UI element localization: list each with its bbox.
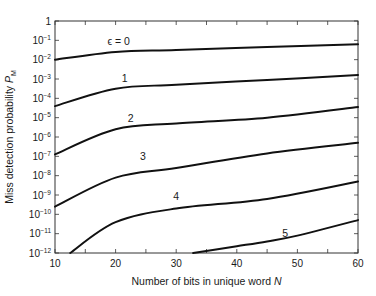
curve-group bbox=[55, 44, 358, 253]
plot-frame bbox=[55, 21, 358, 253]
x-tick-label: 10 bbox=[49, 258, 61, 269]
y-tick-label: 10−3 bbox=[32, 73, 51, 85]
x-tick-label: 50 bbox=[292, 258, 304, 269]
curve-epsilon-5 bbox=[193, 220, 358, 253]
y-tick-label: 10−2 bbox=[32, 53, 51, 65]
y-tick-label: 1 bbox=[45, 16, 51, 27]
curve-label-epsilon-5: 5 bbox=[282, 227, 288, 239]
x-tick-label: 60 bbox=[352, 258, 364, 269]
y-tick-label: 10−10 bbox=[29, 208, 52, 220]
y-tick-label: 10−8 bbox=[32, 169, 51, 181]
x-tick-label: 20 bbox=[110, 258, 122, 269]
curve-epsilon-0 bbox=[55, 44, 358, 60]
y-tick-label: 10−11 bbox=[29, 227, 51, 239]
curve-labels: ϵ = 012345 bbox=[107, 35, 288, 238]
curve-epsilon-3 bbox=[55, 143, 358, 207]
miss-detection-chart: 110−110−210−310−410−510−610−710−810−910−… bbox=[0, 0, 376, 296]
y-tick-label: 10−12 bbox=[29, 247, 52, 259]
curve-label-epsilon-1: 1 bbox=[122, 72, 128, 84]
curve-label-epsilon-4: 4 bbox=[173, 190, 179, 202]
y-tick-label: 10−6 bbox=[32, 131, 51, 143]
y-tick-label: 10−9 bbox=[32, 189, 51, 201]
y-axis-title: Miss detection probability PM bbox=[3, 70, 17, 204]
y-tick-label: 10−4 bbox=[32, 92, 51, 104]
curve-label-epsilon-3: 3 bbox=[140, 150, 146, 162]
curve-label-epsilon-0: ϵ = 0 bbox=[107, 35, 130, 47]
curve-label-epsilon-2: 2 bbox=[128, 112, 134, 124]
y-axis-ticks: 110−110−210−310−410−510−610−710−810−910−… bbox=[29, 16, 358, 259]
y-tick-label: 10−5 bbox=[32, 111, 51, 123]
x-tick-label: 30 bbox=[171, 258, 183, 269]
y-tick-label: 10−7 bbox=[32, 150, 51, 162]
x-tick-label: 40 bbox=[231, 258, 243, 269]
y-tick-label: 10−1 bbox=[32, 34, 51, 46]
x-axis-title: Number of bits in unique word N bbox=[132, 275, 282, 287]
curve-epsilon-4 bbox=[70, 182, 358, 254]
curve-epsilon-1 bbox=[55, 75, 358, 106]
